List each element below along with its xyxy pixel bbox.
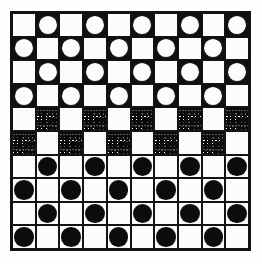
board-cell-light <box>36 178 60 202</box>
board-cell-light <box>83 37 107 61</box>
board-cell-stipple <box>83 107 107 131</box>
board-cell-light <box>12 13 36 37</box>
board-cell-white-disc <box>178 60 202 84</box>
board-cell-black-disc <box>107 225 131 249</box>
board-cell-black-disc <box>59 178 83 202</box>
board-cell-stipple <box>59 131 83 155</box>
board-cell-light <box>36 225 60 249</box>
board-cell-black-disc <box>178 155 202 179</box>
board-cell-white-disc <box>154 37 178 61</box>
board-cell-white-disc <box>131 60 155 84</box>
board-cell-black-disc <box>59 225 83 249</box>
board-cell-light <box>12 60 36 84</box>
board-cell-light <box>154 155 178 179</box>
board-cell-white-disc <box>36 60 60 84</box>
board-cell-light <box>59 155 83 179</box>
board-cell-white-disc <box>202 84 226 108</box>
board-cell-white-disc <box>131 13 155 37</box>
board-cell-black-disc <box>36 202 60 226</box>
board-cell-light <box>36 84 60 108</box>
board-cell-black-disc <box>154 178 178 202</box>
board-cell-light <box>202 13 226 37</box>
board-cell-white-disc <box>83 13 107 37</box>
board-cell-light <box>107 60 131 84</box>
board-cell-black-disc <box>83 202 107 226</box>
board-cell-black-disc <box>178 202 202 226</box>
board-cell-black-disc <box>225 202 249 226</box>
board-cell-white-disc <box>59 84 83 108</box>
board-cell-stipple <box>12 131 36 155</box>
board-cell-light <box>59 13 83 37</box>
board-cell-black-disc <box>131 155 155 179</box>
board-cell-stipple <box>154 131 178 155</box>
board-cell-black-disc <box>36 155 60 179</box>
board-cell-light <box>154 13 178 37</box>
board-cell-light <box>59 60 83 84</box>
board-cell-light <box>12 202 36 226</box>
board-cell-light <box>107 155 131 179</box>
board-cell-light <box>131 37 155 61</box>
board-cell-white-disc <box>178 13 202 37</box>
board-cell-light <box>131 225 155 249</box>
board-cell-white-disc <box>12 37 36 61</box>
board-cell-white-disc <box>59 37 83 61</box>
board-cell-white-disc <box>83 60 107 84</box>
board-cell-black-disc <box>12 178 36 202</box>
board-cell-light <box>59 107 83 131</box>
board-cell-white-disc <box>225 60 249 84</box>
board-cell-light <box>36 131 60 155</box>
board-cell-black-disc <box>131 202 155 226</box>
board-cell-light <box>178 131 202 155</box>
board-cell-light <box>178 84 202 108</box>
board-cell-light <box>202 202 226 226</box>
board-cell-stipple <box>178 107 202 131</box>
board-cell-light <box>202 60 226 84</box>
board-cell-light <box>12 155 36 179</box>
board-cell-light <box>107 13 131 37</box>
board-cell-light <box>83 84 107 108</box>
board-cell-light <box>225 178 249 202</box>
board-cell-light <box>178 225 202 249</box>
board-cell-light <box>83 225 107 249</box>
board-cell-white-disc <box>154 84 178 108</box>
board-cell-light <box>178 37 202 61</box>
board-cell-light <box>202 107 226 131</box>
board-cell-white-disc <box>12 84 36 108</box>
board-cell-white-disc <box>202 37 226 61</box>
board-cell-black-disc <box>83 155 107 179</box>
board-cell-light <box>107 202 131 226</box>
board-cell-light <box>154 60 178 84</box>
board-cell-light <box>154 107 178 131</box>
board-cell-black-disc <box>202 178 226 202</box>
board-cell-light <box>107 107 131 131</box>
board-cell-light <box>131 131 155 155</box>
board-cell-black-disc <box>154 225 178 249</box>
board-cell-black-disc <box>202 225 226 249</box>
board-cell-white-disc <box>225 13 249 37</box>
board-cell-stipple <box>202 131 226 155</box>
board-cell-black-disc <box>225 155 249 179</box>
board-cell-stipple <box>225 107 249 131</box>
board-cell-stipple <box>36 107 60 131</box>
board-cell-light <box>131 84 155 108</box>
board-cell-light <box>225 84 249 108</box>
board-cell-light <box>131 178 155 202</box>
checkerboard-figure <box>0 0 262 264</box>
board-cell-light <box>154 202 178 226</box>
board-cell-light <box>83 178 107 202</box>
board-cell-light <box>225 37 249 61</box>
board-cell-white-disc <box>36 13 60 37</box>
board-cell-light <box>12 107 36 131</box>
board-cell-black-disc <box>12 225 36 249</box>
board-cell-black-disc <box>107 178 131 202</box>
board-cell-light <box>178 178 202 202</box>
board-cell-light <box>36 37 60 61</box>
board-cell-light <box>83 131 107 155</box>
board-cell-light <box>225 131 249 155</box>
board-cell-white-disc <box>107 37 131 61</box>
board-cell-light <box>225 225 249 249</box>
checkerboard-grid <box>10 11 251 251</box>
board-cell-light <box>59 202 83 226</box>
board-cell-stipple <box>107 131 131 155</box>
board-cell-light <box>202 155 226 179</box>
